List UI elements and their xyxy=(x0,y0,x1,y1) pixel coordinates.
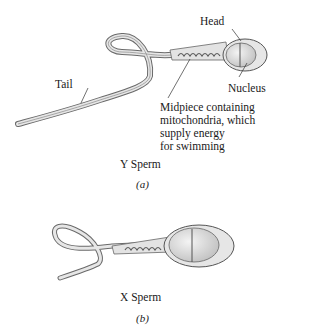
midpiece-leader-line xyxy=(168,59,190,98)
midpiece-line-4: for swimming xyxy=(160,140,225,152)
label-head: Head xyxy=(200,15,224,27)
figure-b-title: X Sperm xyxy=(120,291,161,303)
midpiece-line-3: supply energy xyxy=(160,127,225,139)
x-sperm-illustration xyxy=(54,225,234,278)
midpiece-line-2: mitochondria, which xyxy=(160,114,255,126)
figure-b-caption: (b) xyxy=(136,312,149,324)
label-tail: Tail xyxy=(55,78,73,90)
figure-a-title: Y Sperm xyxy=(120,158,161,170)
head-leader-line xyxy=(232,29,241,41)
midpiece-line-1: Midpiece containing xyxy=(160,101,255,113)
figure-a-caption: (a) xyxy=(136,178,149,190)
label-nucleus: Nucleus xyxy=(228,82,266,94)
tail-leader-line xyxy=(81,88,88,103)
